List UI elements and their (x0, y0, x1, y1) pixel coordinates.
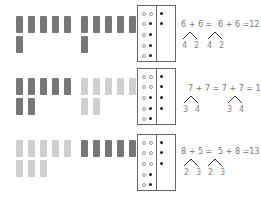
counting-block (81, 78, 88, 95)
filled-dot (149, 173, 152, 176)
counting-block (64, 78, 71, 95)
counting-block (40, 16, 47, 33)
split-part: 2 (184, 168, 189, 177)
filled-dot (149, 117, 152, 120)
counting-block (129, 16, 136, 33)
counting-block (93, 78, 100, 95)
open-dot (142, 183, 146, 187)
ten-frame (137, 5, 176, 62)
counting-block (16, 16, 23, 33)
open-dot (149, 151, 153, 155)
filled-dot (149, 44, 152, 47)
counting-block (117, 140, 124, 157)
counting-block (81, 16, 88, 33)
split-part: 4 (182, 41, 187, 50)
filled-dot (149, 183, 152, 186)
open-dot (142, 44, 146, 48)
filled-dot (149, 107, 152, 110)
counting-block (40, 140, 47, 157)
split-part: 4 (195, 105, 200, 114)
filled-dot (160, 96, 163, 99)
equation: 7 + 7 = 7 + 7 = 14 (188, 84, 261, 93)
counting-block (40, 78, 47, 95)
counting-block (117, 78, 124, 95)
split-part: 3 (183, 105, 188, 114)
split-branch-icon (207, 158, 223, 167)
open-dot (142, 54, 146, 58)
counting-block (16, 98, 23, 115)
equation-left: 6 + 6 = (181, 20, 212, 29)
open-dot (142, 85, 146, 89)
open-dot (142, 12, 146, 16)
counting-block (64, 140, 71, 157)
filled-dot (160, 22, 163, 25)
counting-block (16, 78, 23, 95)
open-dot (142, 162, 146, 166)
open-dot (149, 12, 153, 16)
counting-block (40, 160, 47, 177)
open-dot (149, 85, 153, 89)
counting-block (129, 78, 136, 95)
equation-right: 6 + 6 =12 (218, 20, 259, 29)
filled-dot (160, 162, 163, 165)
split-part: 2 (219, 41, 224, 50)
counting-block (129, 140, 136, 157)
split-part: 4 (207, 41, 212, 50)
open-dot (142, 33, 146, 37)
counting-block (52, 16, 59, 33)
open-dot (142, 173, 146, 177)
open-dot (149, 141, 153, 145)
counting-block (28, 98, 35, 115)
ten-frame (137, 134, 176, 191)
split-part: 2 (194, 41, 199, 50)
make-ten-worksheet: 6 + 6 = 6 + 6 =12 4 2 4 2 7 + 7 = 7 + 7 … (0, 0, 261, 202)
split-branch-icon (183, 158, 199, 167)
counting-block (105, 78, 112, 95)
frame-divider (156, 6, 157, 61)
equation-left: 8 + 5 = (181, 147, 212, 156)
counting-block (105, 140, 112, 157)
split-branch-icon (183, 95, 199, 104)
counting-block (52, 78, 59, 95)
counting-block (28, 78, 35, 95)
split-branch-icon (207, 31, 223, 40)
frame-divider (156, 69, 157, 124)
filled-dot (149, 22, 152, 25)
filled-dot (160, 107, 163, 110)
filled-dot (160, 75, 163, 78)
filled-dot (149, 54, 152, 57)
filled-dot (160, 151, 163, 154)
counting-block (28, 160, 35, 177)
counting-block (16, 36, 23, 53)
ten-frame (137, 68, 176, 125)
split-part: 3 (227, 105, 232, 114)
counting-block (52, 140, 59, 157)
filled-dot (149, 96, 152, 99)
open-dot (149, 75, 153, 79)
open-dot (142, 141, 146, 145)
counting-block (28, 16, 35, 33)
open-dot (142, 151, 146, 155)
counting-block (64, 16, 71, 33)
counting-block (117, 16, 124, 33)
equation-right: 5 + 8 =13 (218, 147, 259, 156)
counting-block (93, 16, 100, 33)
frame-divider (156, 135, 157, 190)
split-part: 4 (239, 105, 244, 114)
counting-block (93, 140, 100, 157)
counting-block (16, 140, 23, 157)
split-part: 3 (196, 168, 201, 177)
filled-dot (160, 85, 163, 88)
counting-block (28, 140, 35, 157)
split-part: 3 (220, 168, 225, 177)
split-branch-icon (182, 31, 198, 40)
split-part: 2 (208, 168, 213, 177)
open-dot (142, 107, 146, 111)
open-dot (142, 117, 146, 121)
open-dot (142, 22, 146, 26)
counting-block (81, 140, 88, 157)
filled-dot (149, 33, 152, 36)
split-branch-icon (227, 95, 243, 104)
counting-block (81, 36, 88, 53)
counting-block (93, 98, 100, 115)
